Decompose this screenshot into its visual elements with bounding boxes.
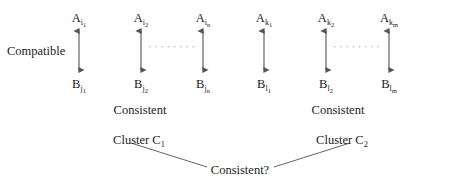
node-subsub: 2: [330, 87, 333, 94]
node-a-i1: Ai1: [72, 12, 87, 25]
node-subsub: 1: [83, 21, 86, 28]
diagram-connectors: [0, 0, 449, 186]
node-subsub: 1: [83, 87, 86, 94]
node-a-k2: Ak2: [318, 12, 334, 25]
cluster2-consistent-label: Consistent: [312, 104, 365, 117]
node-base: A: [380, 11, 389, 25]
cluster2-title-sub: 2: [364, 139, 368, 149]
node-base: A: [196, 11, 205, 25]
node-subsub: n: [207, 21, 210, 28]
compatible-label: Compatible: [7, 45, 65, 58]
node-subsub: 1: [269, 21, 272, 28]
node-b-j1: Bj1: [72, 78, 86, 91]
cluster1-title: Cluster C1: [113, 134, 165, 147]
node-subsub: m: [392, 87, 397, 94]
cluster1-title-sub: 1: [161, 139, 165, 149]
node-subsub: 2: [331, 21, 334, 28]
node-b-l1: Bl1: [257, 78, 271, 91]
node-b-j2: Bj2: [134, 78, 148, 91]
node-subsub: 1: [268, 87, 271, 94]
node-subsub: 2: [145, 21, 148, 28]
node-b-jn: Bjn: [196, 78, 210, 91]
cluster2-title-prefix: Cluster C: [316, 133, 364, 147]
node-b-lm: Blm: [381, 78, 397, 91]
node-a-i2: Ai2: [134, 12, 149, 25]
node-subsub: n: [207, 87, 210, 94]
cluster2-title: Cluster C2: [316, 134, 368, 147]
node-a-in: Ain: [196, 12, 211, 25]
cluster-consistency-diagram: Compatible Ai1 Ai2 Ain Bj1 Bj2 Bjn • • •…: [0, 0, 449, 186]
node-subsub: m: [393, 21, 398, 28]
node-a-k1: Ak1: [256, 12, 272, 25]
node-base: A: [256, 11, 265, 25]
cluster2-ellipsis: • • • • • • • •: [334, 44, 381, 51]
node-a-km: Akm: [380, 12, 398, 25]
consistent-question-label: Consistent?: [211, 164, 269, 177]
cluster1-ellipsis: • • • • • • • •: [149, 44, 196, 51]
cluster1-consistent-label: Consistent: [114, 104, 167, 117]
node-subsub: 2: [145, 87, 148, 94]
node-base: A: [72, 11, 81, 25]
cluster1-title-prefix: Cluster C: [113, 133, 161, 147]
node-base: A: [134, 11, 143, 25]
node-b-l2: Bl2: [319, 78, 333, 91]
node-base: A: [318, 11, 327, 25]
